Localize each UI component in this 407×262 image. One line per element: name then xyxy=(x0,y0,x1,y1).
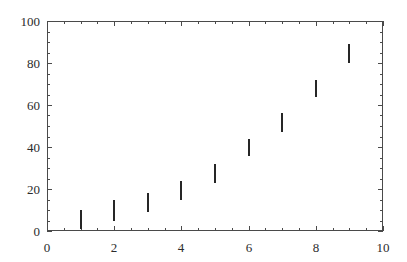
y-tick-right-20 xyxy=(378,189,383,190)
y-axis-label-60: 60 xyxy=(27,99,40,112)
y-tick-65 xyxy=(47,95,50,96)
x-tick-10 xyxy=(383,226,384,231)
x-tick-top-6 xyxy=(249,21,250,26)
data-point-x9 xyxy=(348,44,350,63)
y-tick-right-95 xyxy=(380,32,383,33)
x-tick-top-3.5 xyxy=(165,21,166,24)
y-tick-right-50 xyxy=(380,126,383,127)
x-tick-5.5 xyxy=(232,228,233,231)
x-axis-label-2: 2 xyxy=(111,241,118,254)
x-tick-3.5 xyxy=(165,228,166,231)
y-tick-25 xyxy=(47,179,50,180)
y-tick-85 xyxy=(47,53,50,54)
y-tick-0 xyxy=(47,231,52,232)
x-tick-7.5 xyxy=(299,228,300,231)
y-axis-label-80: 80 xyxy=(27,57,40,70)
x-tick-top-1.5 xyxy=(97,21,98,24)
chart-figure: 0246810020406080100 xyxy=(0,0,407,262)
x-tick-top-2.5 xyxy=(131,21,132,24)
y-axis-label-100: 100 xyxy=(21,15,41,28)
y-axis-label-40: 40 xyxy=(27,141,40,154)
x-tick-6.5 xyxy=(265,228,266,231)
x-axis-label-6: 6 xyxy=(246,241,253,254)
data-point-x2 xyxy=(113,200,115,221)
y-tick-right-90 xyxy=(380,42,383,43)
y-tick-75 xyxy=(47,74,50,75)
x-tick-top-5.5 xyxy=(232,21,233,24)
y-tick-10 xyxy=(47,210,50,211)
data-point-x7 xyxy=(281,113,283,132)
x-tick-top-9.5 xyxy=(366,21,367,24)
y-tick-15 xyxy=(47,200,50,201)
x-tick-top-4 xyxy=(181,21,182,26)
x-axis-label-4: 4 xyxy=(178,241,185,254)
x-tick-top-5 xyxy=(215,21,216,24)
x-tick-top-3 xyxy=(148,21,149,24)
x-tick-top-8 xyxy=(316,21,317,26)
y-tick-right-15 xyxy=(380,200,383,201)
data-point-x1 xyxy=(80,210,82,229)
x-tick-1.5 xyxy=(97,228,98,231)
x-tick-top-7.5 xyxy=(299,21,300,24)
y-tick-100 xyxy=(47,21,52,22)
x-tick-4.5 xyxy=(198,228,199,231)
y-tick-45 xyxy=(47,137,50,138)
x-tick-8 xyxy=(316,226,317,231)
y-tick-35 xyxy=(47,158,50,159)
y-tick-right-5 xyxy=(380,221,383,222)
x-tick-top-4.5 xyxy=(198,21,199,24)
y-tick-right-100 xyxy=(378,21,383,22)
y-tick-right-80 xyxy=(378,63,383,64)
x-axis-label-0: 0 xyxy=(44,241,51,254)
data-point-x4 xyxy=(180,181,182,200)
x-tick-2 xyxy=(114,226,115,231)
y-tick-right-35 xyxy=(380,158,383,159)
y-tick-right-65 xyxy=(380,95,383,96)
y-tick-right-40 xyxy=(378,147,383,148)
x-axis-label-8: 8 xyxy=(313,241,320,254)
x-tick-top-6.5 xyxy=(265,21,266,24)
y-tick-right-0 xyxy=(378,231,383,232)
y-tick-right-75 xyxy=(380,74,383,75)
y-tick-right-60 xyxy=(378,105,383,106)
y-tick-55 xyxy=(47,115,50,116)
data-point-x5 xyxy=(214,164,216,183)
plot-area xyxy=(47,21,383,231)
x-tick-top-0.5 xyxy=(64,21,65,24)
x-tick-top-10 xyxy=(383,21,384,26)
y-tick-30 xyxy=(47,168,50,169)
y-tick-95 xyxy=(47,32,50,33)
x-tick-6 xyxy=(249,226,250,231)
y-tick-5 xyxy=(47,221,50,222)
y-tick-60 xyxy=(47,105,52,106)
y-tick-70 xyxy=(47,84,50,85)
y-tick-20 xyxy=(47,189,52,190)
x-tick-top-7 xyxy=(282,21,283,24)
y-axis-label-20: 20 xyxy=(27,183,40,196)
x-tick-9.5 xyxy=(366,228,367,231)
x-tick-top-9 xyxy=(349,21,350,24)
y-tick-right-70 xyxy=(380,84,383,85)
x-tick-top-8.5 xyxy=(333,21,334,24)
x-tick-0.5 xyxy=(64,228,65,231)
y-tick-40 xyxy=(47,147,52,148)
x-axis-label-10: 10 xyxy=(377,241,390,254)
x-tick-top-1 xyxy=(81,21,82,24)
y-tick-right-30 xyxy=(380,168,383,169)
y-tick-90 xyxy=(47,42,50,43)
x-tick-5 xyxy=(215,228,216,231)
y-tick-right-25 xyxy=(380,179,383,180)
x-tick-top-2 xyxy=(114,21,115,26)
x-tick-8.5 xyxy=(333,228,334,231)
data-point-x3 xyxy=(147,193,149,212)
y-tick-80 xyxy=(47,63,52,64)
y-axis-label-0: 0 xyxy=(34,225,41,238)
y-tick-right-45 xyxy=(380,137,383,138)
data-point-x6 xyxy=(248,139,250,156)
data-point-x8 xyxy=(315,80,317,97)
y-tick-right-10 xyxy=(380,210,383,211)
y-tick-50 xyxy=(47,126,50,127)
x-tick-4 xyxy=(181,226,182,231)
x-tick-3 xyxy=(148,228,149,231)
x-tick-2.5 xyxy=(131,228,132,231)
